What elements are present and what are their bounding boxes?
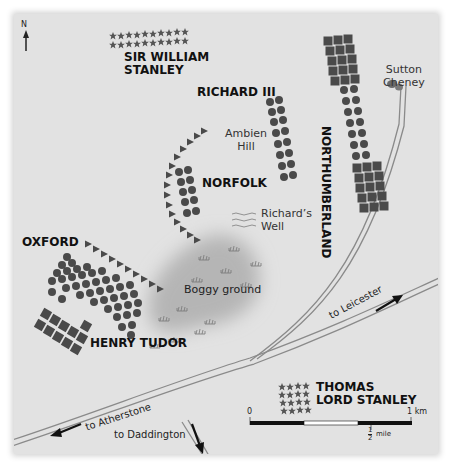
sutton-cheney-label: Sutton Cheney bbox=[383, 63, 425, 89]
arrow-to-daddington-icon bbox=[192, 424, 204, 454]
scale-mile-label: mile bbox=[376, 430, 391, 438]
thomas-lord-stanley-unit bbox=[278, 382, 312, 414]
ambien-hill-label: Ambien Hill bbox=[225, 127, 267, 153]
compass-label: N bbox=[21, 20, 27, 29]
sir-william-stanley-unit bbox=[109, 28, 189, 48]
to-daddington-label: to Daddington bbox=[114, 429, 186, 440]
richards-well-icon bbox=[232, 213, 256, 227]
norfolk-label: NORFOLK bbox=[202, 177, 267, 190]
scale-half-fraction: 1 2 bbox=[368, 427, 372, 442]
oxford-label: OXFORD bbox=[22, 236, 79, 249]
boggy-ground-label: Boggy ground bbox=[184, 283, 261, 296]
thomas-lord-stanley-label: THOMAS LORD STANLEY bbox=[316, 381, 417, 407]
northumberland-unit bbox=[324, 35, 389, 213]
sir-william-stanley-label: SIR WILLIAM STANLEY bbox=[124, 51, 209, 77]
battle-map: N SIR WILLIAM STANLEY RICHARD III NORTHU… bbox=[14, 14, 438, 454]
scale-km-label: 1 km bbox=[407, 407, 427, 416]
richards-well-label: Richard’s Well bbox=[261, 207, 312, 233]
scale-zero-label: 0 bbox=[247, 407, 252, 416]
richard-iii-unit bbox=[266, 96, 297, 181]
scale-bar bbox=[250, 417, 412, 430]
northumberland-label: NORTHUMBERLAND bbox=[319, 126, 332, 258]
richard-iii-label: RICHARD III bbox=[197, 86, 276, 99]
north-arrow-icon bbox=[23, 30, 29, 51]
henry-tudor-label: HENRY TUDOR bbox=[90, 337, 187, 350]
